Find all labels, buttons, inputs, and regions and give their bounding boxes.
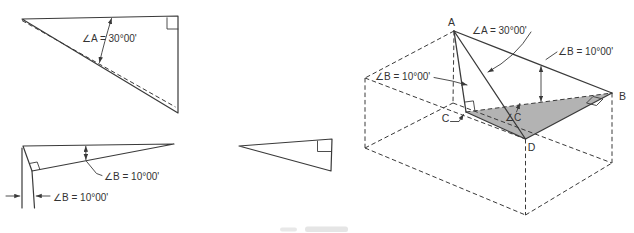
- vertex-d-label: D: [528, 141, 536, 153]
- auxiliary-view: ∠A = 30°00': [22, 16, 178, 113]
- tilted-edge-extension: [32, 171, 35, 208]
- clipped-caption-fragment: [280, 227, 348, 233]
- vertex-b-label: B: [619, 90, 626, 102]
- angle-b-vertical-label: ∠B = 10°00': [53, 192, 108, 203]
- pictorial-angle-b-right-label: ∠B = 10°00': [558, 46, 613, 57]
- vertex-a-label: A: [448, 16, 455, 28]
- front-triangle-outline: [23, 144, 174, 171]
- line-ac: [454, 31, 466, 112]
- line-ab: [454, 31, 612, 93]
- front-view: ∠B = 10°00' ∠B = 10°00': [6, 144, 174, 208]
- box-edge-vertical-under-a: [453, 31, 454, 103]
- technical-figure-canvas: ∠A = 30°00' ∠B = 10°00' ∠B = 10°00': [0, 0, 634, 232]
- side-view: [239, 139, 332, 171]
- angle-b-leader-label: ∠B = 10°00': [104, 171, 159, 182]
- pictorial-angle-c-label: ∠C: [505, 112, 521, 123]
- vertex-c-label: C: [442, 112, 450, 124]
- right-angle-marker: [167, 17, 178, 29]
- figure-page: ∠A = 30°00' ∠B = 10°00' ∠B = 10°00': [0, 0, 634, 232]
- box-edge: [365, 148, 526, 215]
- box-edge-hidden: [365, 103, 453, 148]
- vertex-c-leader: [451, 115, 464, 122]
- pictorial-angle-b-left-label: ∠B = 10°00': [375, 71, 430, 82]
- pictorial-view: A B C D ∠A = 30°00' ∠B = 10°00' ∠B = 10°…: [365, 16, 626, 215]
- angle-a-label: ∠A = 30°00': [82, 33, 137, 44]
- box-edge: [526, 163, 613, 215]
- side-triangle-outline: [239, 139, 332, 171]
- angle-b-leader-line: [86, 161, 102, 176]
- angle-b-right-leader: [546, 52, 557, 60]
- angle-a-leader-arc: [488, 32, 531, 72]
- right-angle-marker: [318, 141, 332, 152]
- dashed-box: [365, 31, 612, 215]
- pictorial-angle-a-label: ∠A = 30°00': [472, 25, 527, 36]
